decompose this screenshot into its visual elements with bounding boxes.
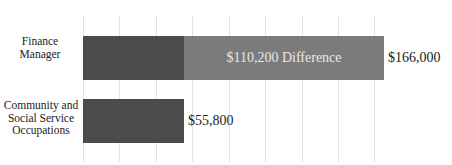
bar-segment-base <box>83 36 184 80</box>
bar-segment-base <box>83 99 184 143</box>
category-label-finance-manager: Finance Manager <box>0 35 80 60</box>
label-line: Manager <box>0 48 80 61</box>
chart-plot-area: $110,200 Difference <box>83 16 383 162</box>
difference-annotation: $110,200 Difference <box>184 36 384 80</box>
bar-community-social-service <box>83 99 184 143</box>
value-label-finance-manager: $166,000 <box>388 50 441 66</box>
label-line: Occupations <box>0 124 82 137</box>
label-line: Community and <box>0 99 82 112</box>
value-label-community-social-service: $55,800 <box>188 113 234 129</box>
label-line: Social Service <box>0 112 82 125</box>
bar-finance-manager: $110,200 Difference <box>83 36 384 80</box>
label-line: Finance <box>0 35 80 48</box>
category-label-community-social-service: Community and Social Service Occupations <box>0 99 82 137</box>
